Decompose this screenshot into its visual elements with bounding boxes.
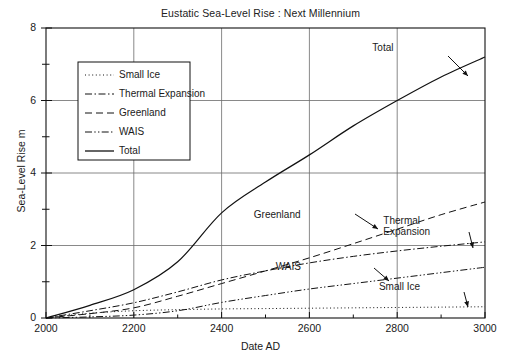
annotation-small-ice: Small Ice: [379, 281, 420, 293]
y-tick-label: 0: [16, 311, 36, 323]
annotation-greenland: Greenland: [254, 209, 301, 221]
x-tick-label: 2200: [114, 322, 154, 334]
x-tick-label: 2800: [377, 322, 417, 334]
plot-canvas: [0, 0, 521, 362]
y-tick-label: 6: [16, 94, 36, 106]
legend-label-wais: WAIS: [119, 126, 144, 137]
series-thermal-expansion: [46, 242, 485, 318]
annotation-total: Total: [372, 42, 393, 54]
legend-label-total: Total: [119, 145, 140, 156]
annotation-thermal: ThermalExpansion: [383, 215, 430, 238]
annotation-wais: WAIS: [276, 261, 301, 273]
x-tick-label: 2600: [289, 322, 329, 334]
y-tick-label: 4: [16, 166, 36, 178]
legend-label-small-ice: Small Ice: [119, 69, 160, 80]
x-tick-label: 3000: [465, 322, 505, 334]
y-tick-label: 2: [16, 239, 36, 251]
y-tick-label: 8: [16, 21, 36, 33]
legend-label-greenland: Greenland: [119, 107, 166, 118]
chart-root: Eustatic Sea-Level Rise : Next Millenniu…: [0, 0, 521, 362]
legend-label-thermal-expansion: Thermal Expansion: [119, 88, 205, 99]
x-tick-label: 2000: [26, 322, 66, 334]
x-tick-label: 2400: [202, 322, 242, 334]
